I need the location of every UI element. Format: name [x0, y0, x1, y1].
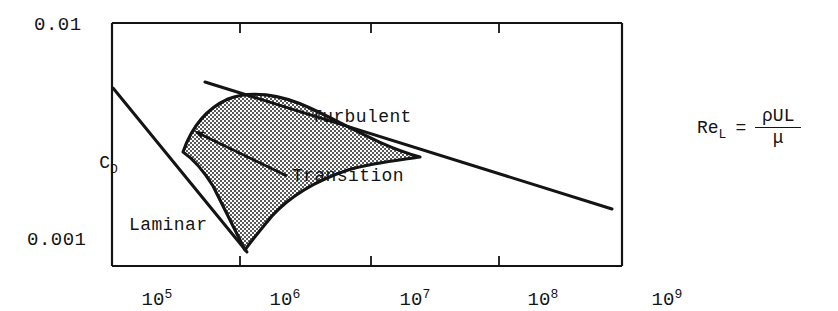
y-axis-top-label: 0.01 — [34, 16, 82, 35]
tick-exponent-1e6: 6 — [292, 287, 300, 302]
tick-exponent-1e5: 5 — [164, 287, 172, 302]
reynolds-number-formula: ReL = ρUL μ — [697, 107, 801, 148]
formula-denominator: μ — [771, 128, 786, 148]
formula-symbol-subscript: L — [719, 126, 727, 141]
y-axis-bottom-label: 0.001 — [27, 231, 87, 250]
y-axis-title-base: C — [99, 153, 110, 173]
transition-label: Transition — [292, 167, 404, 185]
laminar-label: Laminar — [129, 216, 207, 234]
x-axis-tick-label-1e6: 106 — [224, 272, 300, 311]
tick-exponent-1e7: 7 — [422, 287, 430, 302]
chart-figure: 0.01 0.001 CD 105 106 107 108 109 Lamina… — [0, 0, 838, 311]
tick-exponent-1e8: 8 — [550, 287, 558, 302]
formula-fraction: ρUL μ — [755, 107, 801, 148]
tick-base-1e8: 10 — [528, 289, 551, 311]
chart-vector-layer — [0, 0, 838, 311]
y-axis-title: CD — [56, 136, 118, 190]
formula-symbol-base: Re — [697, 118, 719, 138]
x-axis-tick-label-1e7: 107 — [354, 272, 430, 311]
x-axis-tick-label-1e9: 109 — [606, 272, 682, 311]
x-axis-tick-label-1e5: 105 — [96, 272, 172, 311]
tick-base-1e6: 10 — [270, 289, 293, 311]
tick-base-1e5: 10 — [142, 289, 165, 311]
formula-symbol: ReL — [697, 118, 726, 138]
y-axis-title-subscript: D — [110, 162, 118, 177]
turbulent-label: Turbulent — [311, 108, 412, 126]
tick-base-1e9: 10 — [652, 289, 675, 311]
tick-exponent-1e9: 9 — [674, 287, 682, 302]
formula-equals: = — [735, 118, 746, 138]
tick-base-1e7: 10 — [400, 289, 423, 311]
formula-numerator: ρUL — [760, 107, 796, 127]
x-axis-tick-label-1e8: 108 — [482, 272, 558, 311]
